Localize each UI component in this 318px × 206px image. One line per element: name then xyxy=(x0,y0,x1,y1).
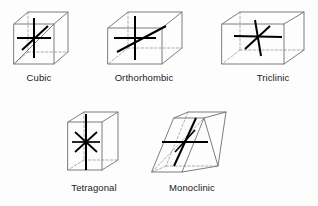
tetragonal-label: Tetragonal xyxy=(52,182,136,193)
tetragonal-unit-cell-diagram xyxy=(62,108,124,180)
monoclinic-unit-cell-diagram xyxy=(148,108,234,180)
orthorhombic-label: Orthorhombic xyxy=(98,72,190,83)
crystal-systems-figure: Cubic Orthorhombic xyxy=(0,0,318,206)
orthorhombic-unit-cell-diagram xyxy=(104,2,188,72)
triclinic-unit-cell-diagram xyxy=(218,4,312,72)
cubic-unit-cell-diagram xyxy=(8,4,72,70)
triclinic-label: Triclinic xyxy=(234,72,312,83)
cubic-label: Cubic xyxy=(6,72,72,83)
monoclinic-label: Monoclinic xyxy=(148,182,236,193)
